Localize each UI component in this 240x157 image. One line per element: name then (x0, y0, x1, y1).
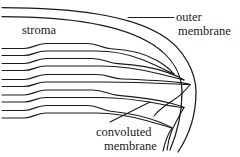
lamella-3-bottom (2, 82, 190, 87)
lamellae-group (2, 44, 190, 129)
lamella-2-top (2, 59, 184, 81)
lamella-2-bottom (2, 66, 184, 80)
lamella-4-top (2, 90, 184, 108)
label-convoluted-membrane-line1: convoluted (96, 125, 152, 139)
label-outer-membrane-line2: membrane (178, 24, 231, 38)
label-stroma: stroma (22, 23, 56, 37)
label-convoluted-membrane: convolutedmembrane (96, 125, 157, 153)
convoluted-fold-lower (167, 108, 184, 151)
chloroplast-diagram: stroma outermembrane convolutedmembrane (0, 0, 240, 157)
label-outer-membrane: outermembrane (176, 10, 231, 38)
label-outer-membrane-line1: outer (176, 10, 202, 24)
label-convoluted-membrane-line2: membrane (104, 139, 157, 153)
